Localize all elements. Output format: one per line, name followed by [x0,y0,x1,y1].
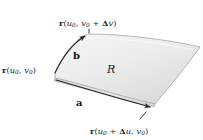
corner-label-left: r(u0, v0) [2,66,36,76]
surface-patch-body [55,34,200,104]
paren-close: ) [33,65,36,75]
surface-patch-figure: r(u0, v0 + Δv) r(u0, v0) r(u0 + Δu, v0) … [0,0,203,140]
bottom-label-leader [140,112,146,119]
corner-label-bottom: r(u0 + Δu, v0) [90,127,148,137]
paren-close: ) [145,126,148,136]
vector-a-label: a [76,98,82,108]
plus-operator: + [90,18,102,28]
region-label: R [107,64,115,75]
patch-surface [55,34,200,104]
corner-label-top: r(u0, v0 + Δv) [59,19,117,29]
paren-close: ) [113,18,116,28]
vector-b-label: b [73,51,80,61]
plus-operator: + [107,126,119,136]
